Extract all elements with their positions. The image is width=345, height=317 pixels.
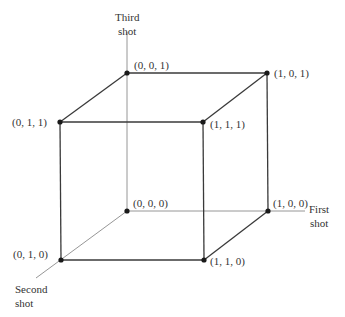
vertex-001-label: (0, 0, 1) bbox=[134, 59, 169, 71]
second-shot-label-line1: Second bbox=[15, 283, 47, 295]
vertex-011-label: (0, 1, 1) bbox=[12, 116, 47, 128]
vertex-101-label: (1, 0, 1) bbox=[274, 67, 309, 79]
third-shot-label-line2: shot bbox=[115, 25, 139, 37]
second-shot-axis bbox=[36, 211, 127, 278]
third-shot-label: Third shot bbox=[115, 11, 139, 37]
vertex-000-label: (0, 0, 0) bbox=[133, 197, 168, 209]
first-shot-label: First shot bbox=[309, 203, 329, 229]
first-shot-label-line1: First bbox=[309, 203, 329, 215]
third-shot-label-line1: Third bbox=[115, 11, 139, 23]
second-shot-label: Second shot bbox=[15, 283, 47, 309]
vertex-100-dot bbox=[265, 208, 270, 213]
vertex-110-dot bbox=[201, 257, 206, 262]
vertex-110-label: (1, 1, 0) bbox=[210, 255, 245, 267]
vertex-111-dot bbox=[200, 119, 205, 124]
vertex-100-label: (1, 0, 0) bbox=[273, 197, 308, 209]
vertex-101-dot bbox=[264, 70, 269, 75]
vertex-111-label: (1, 1, 1) bbox=[210, 118, 245, 130]
second-shot-label-line2: shot bbox=[15, 297, 47, 309]
cube-diagram bbox=[0, 0, 345, 317]
first-shot-label-line2: shot bbox=[309, 217, 329, 229]
vertex-011-dot bbox=[57, 119, 62, 124]
vertex-001-dot bbox=[124, 70, 129, 75]
vertex-000-dot bbox=[124, 208, 129, 213]
cube-edges bbox=[60, 73, 268, 260]
vertex-010-dot bbox=[58, 257, 63, 262]
vertex-010-label: (0, 1, 0) bbox=[13, 248, 48, 260]
